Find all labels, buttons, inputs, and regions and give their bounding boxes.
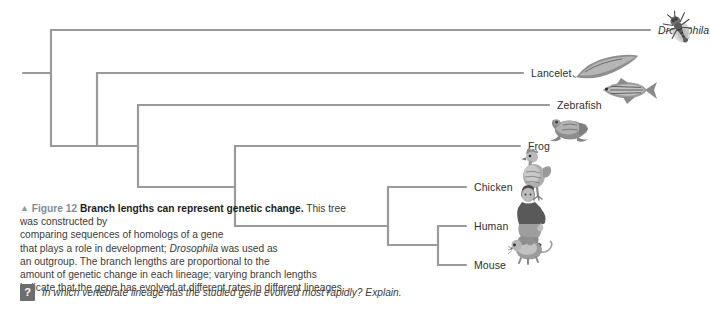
figure-number: Figure 12 (32, 203, 77, 214)
tip-label-lancelet: Lancelet (531, 67, 572, 79)
figure-caption: ▲ Figure 12 Branch lengths can represent… (20, 202, 365, 294)
tip-label-zebrafish: Zebrafish (557, 99, 602, 111)
question-badge-icon: ? (20, 284, 35, 301)
mouse-icon (508, 232, 554, 266)
caption-body-line3-sci: Drosophila (170, 243, 219, 254)
zebrafish-icon (597, 76, 659, 106)
figure-12-container: Drosophila Lancelet Zebrafish Frog Chick… (0, 0, 710, 319)
tip-label-mouse: Mouse (474, 259, 506, 271)
caption-body-line4: an outgroup. The branch lengths are prop… (20, 256, 270, 267)
question-text: In which vertebrate lineage has the stud… (42, 284, 402, 301)
tip-label-human: Human (474, 220, 508, 232)
frog-icon (546, 112, 592, 146)
caption-body-line3-pre: that plays a role in development; (20, 243, 170, 254)
caption-body-line3-post: was used as (218, 243, 277, 254)
fly-icon (656, 8, 702, 48)
caption-heading: ▲ Figure 12 Branch lengths can represent… (20, 202, 365, 228)
caption-body-line2: comparing sequences of homologs of a gen… (20, 229, 223, 240)
figure-marker-icon: ▲ (20, 203, 29, 213)
caption-body-line5: amount of genetic change in each lineage… (20, 269, 317, 280)
question-row: ? In which vertebrate lineage has the st… (20, 284, 402, 301)
figure-title: Branch lengths can represent genetic cha… (80, 203, 304, 214)
